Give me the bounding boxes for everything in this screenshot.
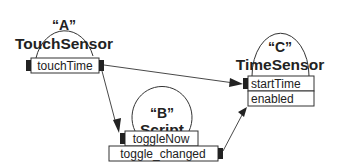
arrowhead-icon — [113, 118, 121, 133]
port-touchtime-in[interactable] — [26, 60, 31, 71]
field-toggle-changed: toggle_changed — [120, 147, 205, 161]
node-b-def-label: “B” — [150, 105, 174, 121]
port-toggle-changed-out[interactable] — [218, 148, 223, 159]
field-starttime: startTime — [251, 77, 301, 91]
route-line — [104, 65, 234, 83]
arrowhead-icon — [238, 107, 247, 117]
port-touchtime-out[interactable] — [99, 60, 104, 71]
field-enabled: enabled — [251, 92, 294, 106]
port-starttime-in[interactable] — [243, 78, 248, 89]
route-toggle-changed-to-enabled[interactable] — [223, 107, 247, 151]
route-line — [223, 115, 242, 151]
route-touchtime-to-starttime[interactable] — [104, 65, 243, 87]
node-c-timesensor[interactable]: “C” TimeSensor startTime enabled — [236, 33, 324, 106]
route-touchtime-to-togglenow[interactable] — [102, 71, 121, 133]
arrowhead-icon — [229, 78, 243, 87]
node-c-def-label: “C” — [268, 39, 292, 55]
route-line — [102, 71, 116, 124]
field-touchtime: touchTime — [37, 59, 93, 73]
node-b-script[interactable]: “B” Script toggleNow toggle_changed — [109, 86, 223, 161]
node-c-type-label: TimeSensor — [236, 56, 324, 73]
port-togglenow-in[interactable] — [120, 133, 125, 144]
node-a-def-label: “A” — [52, 17, 76, 33]
field-togglenow: toggleNow — [133, 132, 190, 146]
node-a-touchsensor[interactable]: “A” TouchSensor touchTime — [15, 17, 113, 73]
route-diagram: “A” TouchSensor touchTime “C” TimeSensor… — [0, 0, 339, 167]
node-a-type-label: TouchSensor — [15, 35, 113, 52]
